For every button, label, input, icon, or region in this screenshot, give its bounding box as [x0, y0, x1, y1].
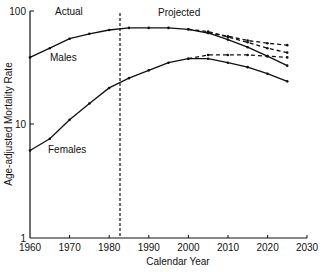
data-point: [147, 69, 150, 72]
data-point: [227, 38, 230, 41]
data-point: [207, 57, 210, 60]
data-point: [266, 47, 269, 50]
svg-text:2020: 2020: [256, 242, 279, 253]
data-point: [246, 46, 249, 49]
data-point: [88, 102, 91, 105]
data-point: [227, 54, 230, 57]
data-point: [29, 56, 32, 59]
data-point: [246, 66, 249, 69]
data-point: [266, 42, 269, 45]
svg-text:1970: 1970: [58, 242, 81, 253]
data-point: [207, 54, 210, 57]
x-tick-labels: 1960 1970 1980 1990 2000 2010 2020 2030: [19, 242, 319, 253]
data-point: [167, 61, 170, 64]
mortality-chart: 100 10 1 1960 1970 1980 1990 2000 2010 2…: [0, 0, 325, 272]
data-point: [266, 72, 269, 75]
svg-text:2010: 2010: [217, 242, 240, 253]
females-line: [30, 59, 287, 151]
data-point: [266, 55, 269, 58]
data-point: [128, 77, 131, 80]
data-point: [286, 51, 289, 54]
projected-label: Projected: [158, 7, 200, 18]
data-point: [187, 57, 190, 60]
males-projected-alt--line: [188, 29, 287, 52]
data-point: [68, 37, 71, 40]
data-point: [246, 39, 249, 42]
actual-label: Actual: [55, 6, 83, 17]
data-point: [48, 137, 51, 140]
x-axis-label: Calendar Year: [146, 256, 210, 267]
data-point: [128, 27, 131, 30]
data-point: [286, 80, 289, 83]
data-point: [286, 44, 289, 47]
data-point: [88, 32, 91, 35]
data-point: [207, 32, 210, 35]
data-point: [227, 61, 230, 64]
data-point: [48, 47, 51, 50]
data-point: [108, 29, 111, 32]
svg-text:1990: 1990: [138, 242, 161, 253]
data-point: [68, 119, 71, 122]
data-point: [147, 27, 150, 30]
males-label: Males: [50, 52, 77, 63]
svg-text:2030: 2030: [296, 242, 319, 253]
y-tick-label: 100: [9, 6, 26, 17]
data-point: [227, 35, 230, 38]
data-point: [167, 27, 170, 30]
y-axis-label: Age-adjusted Mortality Rate: [3, 62, 14, 186]
data-point: [286, 64, 289, 67]
svg-text:2000: 2000: [177, 242, 200, 253]
y-tick-label: 10: [15, 119, 27, 130]
data-point: [108, 87, 111, 90]
data-point: [246, 54, 249, 57]
svg-text:1980: 1980: [98, 242, 121, 253]
females-label: Females: [48, 144, 86, 155]
series-group: [29, 27, 289, 152]
data-point: [286, 56, 289, 59]
svg-text:1960: 1960: [19, 242, 42, 253]
data-point: [187, 28, 190, 31]
data-point: [29, 149, 32, 152]
